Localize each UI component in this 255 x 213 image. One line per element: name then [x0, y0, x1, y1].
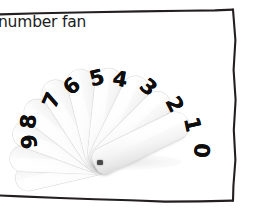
photo-canvas: number fan 9876543210 — [0, 0, 255, 213]
fan-pivot-rivet — [97, 160, 103, 165]
fan-digit-0: 0 — [190, 135, 212, 166]
number-fan: 9876543210 — [0, 0, 255, 213]
